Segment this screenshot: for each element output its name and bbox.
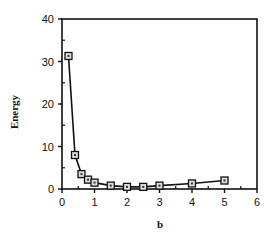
data-series bbox=[65, 52, 228, 190]
x-axis-title: b bbox=[157, 218, 163, 230]
y-tick-label: 0 bbox=[48, 183, 54, 195]
series-line bbox=[69, 56, 225, 187]
y-tick-label: 20 bbox=[42, 98, 54, 110]
x-tick-label: 4 bbox=[189, 196, 195, 208]
x-tick-label: 3 bbox=[156, 196, 162, 208]
y-axis-title: Energy bbox=[8, 94, 20, 129]
x-tick-label: 1 bbox=[91, 196, 97, 208]
chart-canvas: 010203040 0123456 b Energy bbox=[0, 0, 271, 238]
x-tick-label: 2 bbox=[124, 196, 130, 208]
plot-border bbox=[62, 19, 257, 189]
y-tick-label: 40 bbox=[42, 13, 54, 25]
y-tick-label: 10 bbox=[42, 141, 54, 153]
plot-frame bbox=[62, 19, 257, 189]
y-tick-label: 30 bbox=[42, 56, 54, 68]
x-tick-label: 0 bbox=[59, 196, 65, 208]
x-tick-label: 5 bbox=[221, 196, 227, 208]
x-tick-label: 6 bbox=[254, 196, 260, 208]
energy-vs-b-chart: 010203040 0123456 b Energy bbox=[0, 0, 271, 238]
